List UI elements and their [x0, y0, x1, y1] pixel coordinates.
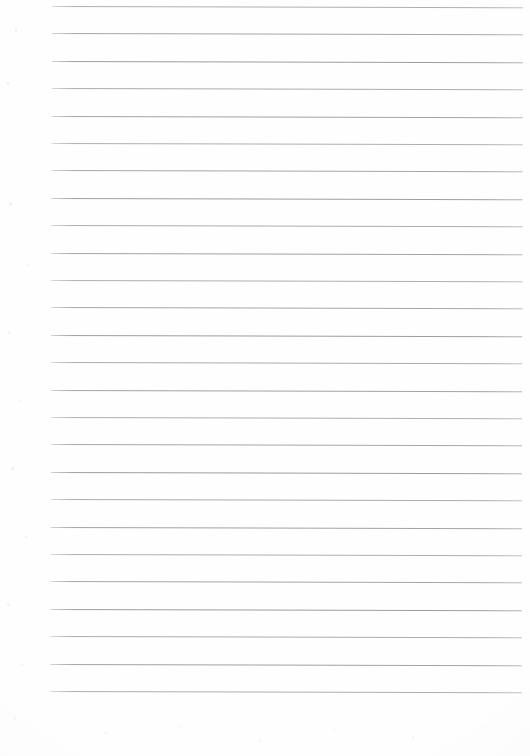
ruled-line	[51, 636, 522, 638]
ruled-line	[52, 6, 523, 8]
ruled-line	[51, 609, 522, 611]
ruled-line	[52, 116, 523, 118]
ruled-line	[51, 280, 522, 282]
ruled-line	[52, 171, 523, 173]
ruled-line	[51, 527, 522, 529]
ruled-line	[51, 308, 522, 310]
ruled-lines-group	[0, 0, 530, 756]
ruled-line	[51, 253, 522, 255]
ruled-line	[51, 225, 522, 227]
ruled-line	[51, 335, 522, 337]
ruled-line	[52, 143, 523, 145]
ruled-line	[52, 198, 523, 200]
ruled-line	[51, 390, 522, 392]
ruled-line	[51, 582, 522, 584]
ruled-line	[52, 61, 523, 63]
ruled-line	[51, 417, 522, 419]
ruled-line	[52, 34, 523, 36]
ruled-line	[50, 691, 521, 693]
ruled-line	[51, 445, 522, 447]
ruled-line	[52, 88, 523, 90]
ruled-line	[50, 664, 521, 666]
ruled-line	[51, 362, 522, 364]
ruled-line	[51, 472, 522, 474]
paper-background-tone	[0, 0, 530, 756]
ruled-line	[51, 554, 522, 556]
scanned-page	[0, 0, 530, 756]
ruled-line	[51, 499, 522, 501]
scan-noise-overlay	[0, 0, 530, 756]
